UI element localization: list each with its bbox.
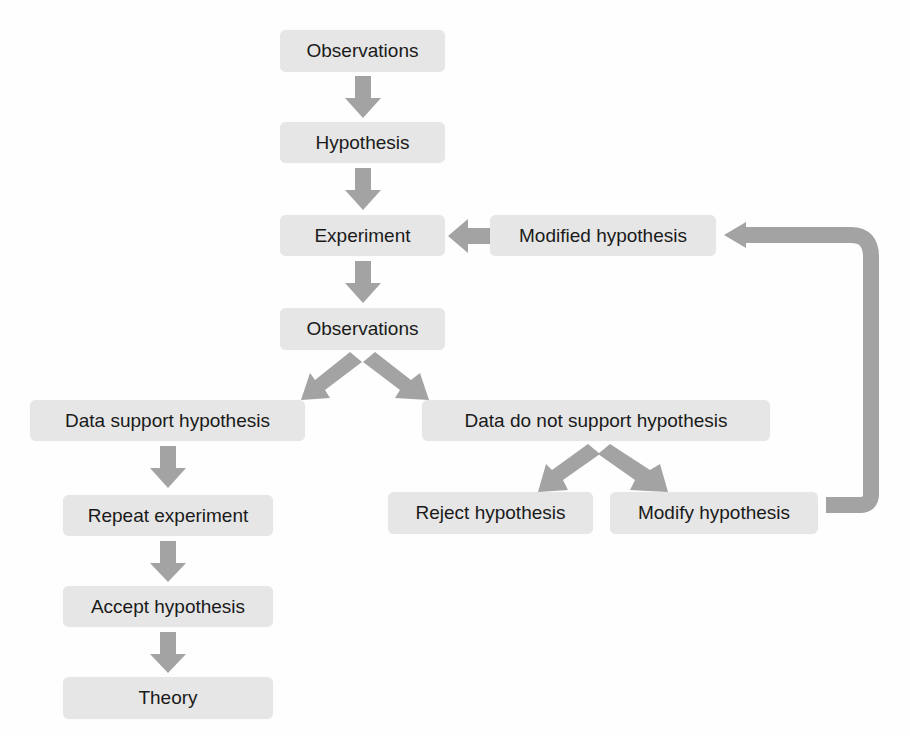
arrow-diagonal-icon bbox=[598, 444, 668, 492]
arrow-diagonal-icon bbox=[301, 352, 362, 400]
node-modified-hypothesis: Modified hypothesis bbox=[490, 215, 716, 256]
node-label: Theory bbox=[138, 687, 197, 709]
node-label: Repeat experiment bbox=[88, 505, 249, 527]
arrow-down-icon bbox=[345, 261, 381, 303]
node-observations-1: Observations bbox=[280, 30, 445, 72]
node-label: Observations bbox=[307, 318, 419, 340]
node-hypothesis: Hypothesis bbox=[280, 122, 445, 163]
scientific-method-flowchart: Observations Hypothesis Experiment Modif… bbox=[0, 0, 910, 736]
node-observations-2: Observations bbox=[280, 308, 445, 350]
node-theory: Theory bbox=[63, 677, 273, 719]
arrow-left-icon bbox=[448, 219, 490, 253]
node-repeat-experiment: Repeat experiment bbox=[63, 495, 273, 536]
arrow-down-icon bbox=[150, 632, 186, 673]
node-label: Modify hypothesis bbox=[638, 502, 790, 524]
node-modify-hypothesis: Modify hypothesis bbox=[610, 492, 818, 534]
node-label: Data do not support hypothesis bbox=[464, 410, 727, 432]
feedback-loop-arrow-icon bbox=[744, 235, 871, 505]
arrow-down-icon bbox=[345, 76, 381, 118]
arrow-left-icon bbox=[724, 222, 746, 248]
node-label: Data support hypothesis bbox=[65, 410, 270, 432]
node-accept-hypothesis: Accept hypothesis bbox=[63, 586, 273, 627]
node-data-not-support: Data do not support hypothesis bbox=[422, 400, 770, 441]
node-label: Accept hypothesis bbox=[91, 596, 245, 618]
node-reject-hypothesis: Reject hypothesis bbox=[388, 492, 593, 534]
node-label: Experiment bbox=[314, 225, 410, 247]
node-experiment: Experiment bbox=[280, 215, 445, 256]
arrow-diagonal-icon bbox=[538, 444, 600, 492]
node-data-support: Data support hypothesis bbox=[30, 400, 305, 441]
node-label: Observations bbox=[307, 40, 419, 62]
node-label: Hypothesis bbox=[316, 132, 410, 154]
node-label: Reject hypothesis bbox=[416, 502, 566, 524]
arrow-diagonal-icon bbox=[363, 352, 429, 400]
node-label: Modified hypothesis bbox=[519, 225, 687, 247]
arrow-down-icon bbox=[345, 168, 381, 210]
arrow-down-icon bbox=[150, 446, 186, 488]
arrow-down-icon bbox=[150, 541, 186, 582]
